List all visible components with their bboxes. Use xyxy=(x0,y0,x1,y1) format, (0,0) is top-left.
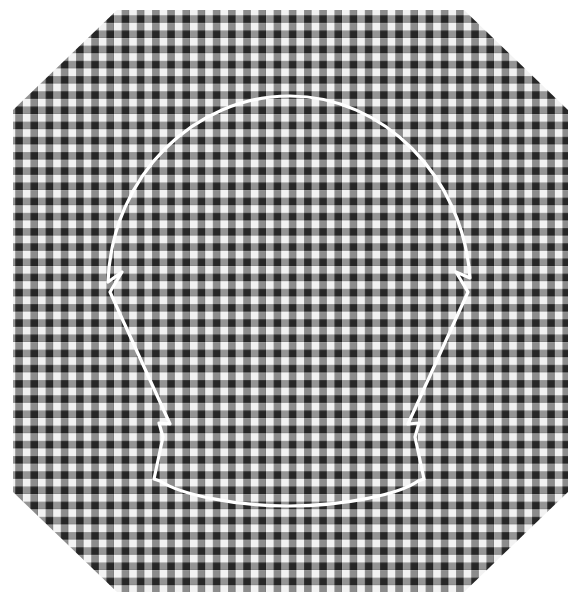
gingham-artboard xyxy=(0,0,581,605)
fabric-weave-fill xyxy=(0,0,581,605)
image-canvas: Gingham fabric swatch with drawn pattern… xyxy=(0,0,581,605)
fabric-swatch xyxy=(0,0,581,605)
